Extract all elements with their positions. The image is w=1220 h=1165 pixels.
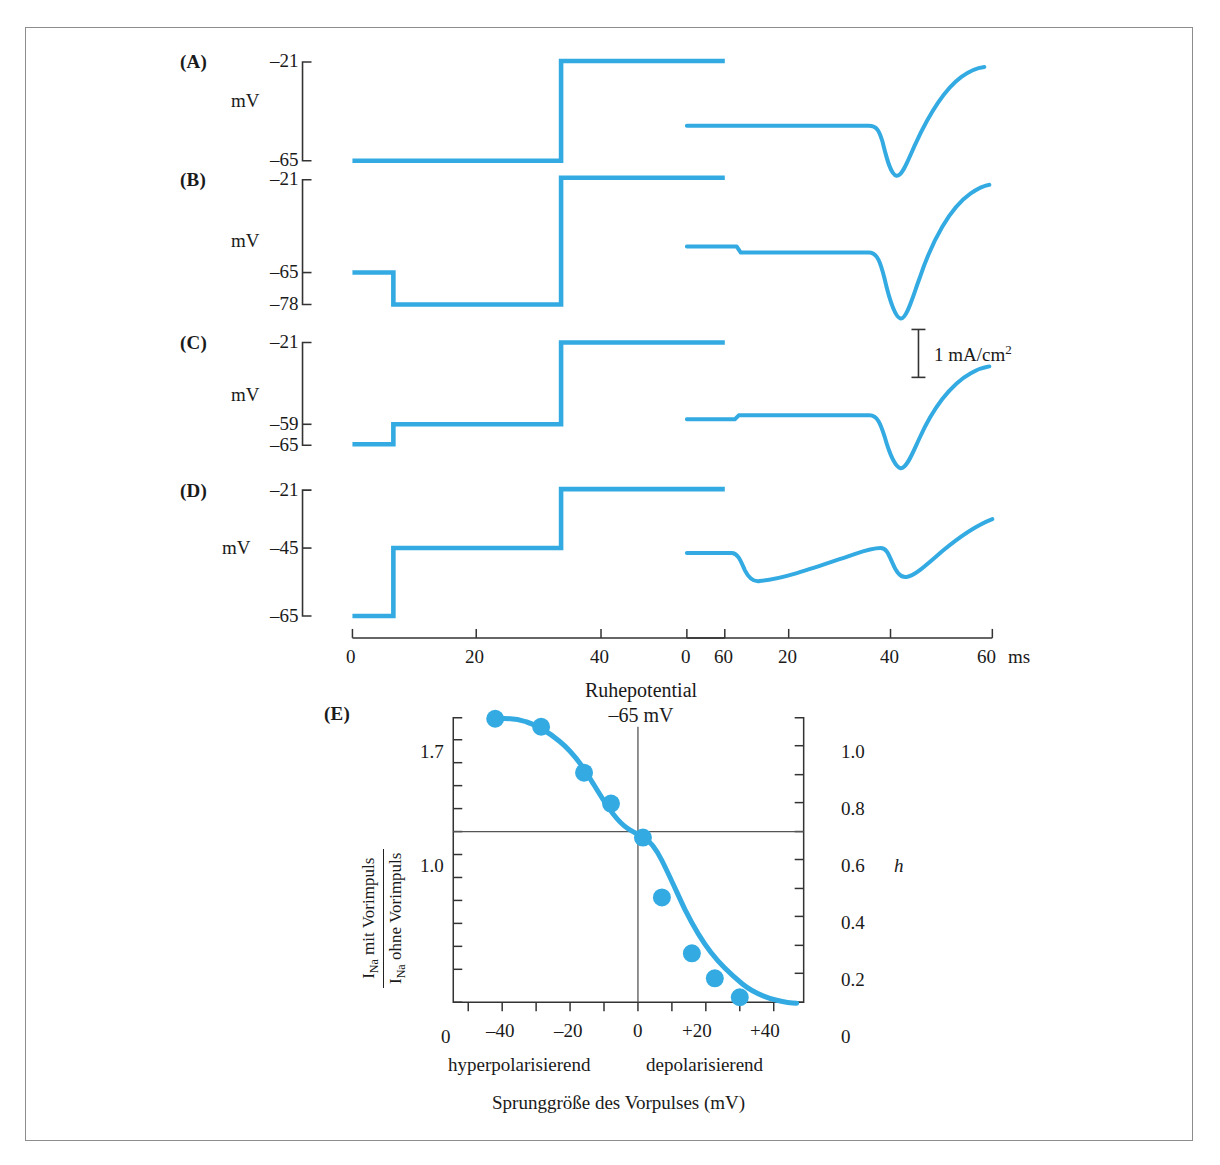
panel-e-left-tick-1-0: 1.0 — [420, 855, 444, 877]
x-axis-sublabel-hyperpolarizing: hyperpolarisierend — [448, 1054, 590, 1076]
inactivation-curve — [495, 718, 796, 1003]
x-axis-title: Sprunggröße des Vorpulses (mV) — [492, 1092, 745, 1114]
panel-d-axis-mid-value: –45 — [270, 537, 299, 559]
panel-c-voltage-trace — [352, 342, 724, 444]
panel-c-axis-bottom-value: –65 — [270, 434, 299, 456]
time-axis-right — [687, 629, 992, 638]
panel-c-axis-top-value: –21 — [270, 331, 299, 353]
panel-b-axis-mid-value: –65 — [270, 261, 299, 283]
panel-e-right-axis — [795, 718, 804, 1002]
panel-c-unit-label: mV — [231, 384, 260, 406]
scale-bar-label: 1 mA/cm2 — [934, 342, 1012, 366]
time-tick-right-40: 40 — [880, 646, 899, 668]
panel-e-x-tick-plus40: +40 — [750, 1020, 780, 1042]
panel-e-right-tick-0: 0 — [841, 1026, 851, 1048]
panel-b-current-trace — [687, 185, 989, 319]
scale-bar-exponent: 2 — [1005, 342, 1012, 357]
panel-a-voltage-axis — [303, 62, 312, 161]
inactivation-data-points — [486, 710, 749, 1006]
panel-d-axis-top-value: –21 — [270, 479, 299, 501]
time-tick-left-40: 40 — [590, 646, 609, 668]
panel-b-voltage-trace — [352, 178, 724, 305]
panel-a-current-trace — [687, 67, 984, 176]
y-axis-numerator: INa mit Vorimpuls — [359, 849, 383, 988]
panel-e-right-tick-0-4: 0.4 — [841, 912, 865, 934]
panel-label-e: (E) — [324, 703, 350, 725]
panel-e-left-axis — [453, 718, 462, 1002]
panel-e-x-tick-plus20: +20 — [682, 1020, 712, 1042]
panel-a-axis-top-value: –21 — [270, 50, 299, 72]
panel-b-voltage-axis — [303, 180, 312, 305]
time-tick-right-0: 0 — [681, 646, 691, 668]
resting-potential-annotation-line2: –65 mV — [566, 704, 716, 727]
panel-label-d: (D) — [180, 480, 207, 502]
panel-b-unit-label: mV — [231, 230, 260, 252]
panel-b-axis-bottom-value: –78 — [270, 293, 299, 315]
time-axis-unit: ms — [1008, 646, 1030, 668]
time-tick-left-20: 20 — [465, 646, 484, 668]
panel-d-current-trace — [687, 519, 992, 581]
panel-c-current-trace — [687, 366, 989, 468]
panel-e-x-axis — [453, 1002, 803, 1011]
figure-canvas — [26, 28, 1192, 1140]
time-tick-left-60: 60 — [714, 646, 733, 668]
panel-e-right-tick-0-2: 0.2 — [841, 969, 865, 991]
panel-e-right-axis-symbol: h — [894, 855, 904, 877]
resting-potential-annotation-line1: Ruhepotential — [566, 679, 716, 702]
panel-b-axis-top-value: –21 — [270, 168, 299, 190]
panel-label-b: (B) — [180, 169, 206, 191]
panel-e-left-tick-1-7: 1.7 — [420, 741, 444, 763]
panel-e-right-tick-0-8: 0.8 — [841, 798, 865, 820]
panel-c-voltage-axis — [303, 342, 312, 445]
panel-e-x-tick-minus20: –20 — [554, 1020, 583, 1042]
time-tick-right-60: 60 — [977, 646, 996, 668]
panel-e-y-axis-label: INa mit Vorimpuls INa ohne Vorimpuls — [359, 849, 410, 988]
scale-bar — [911, 329, 925, 377]
figure-frame: (A) –21 mV –65 (B) –21 mV –65 –78 (C) –2… — [25, 27, 1193, 1141]
panel-d-voltage-trace — [352, 489, 724, 616]
time-tick-right-20: 20 — [778, 646, 797, 668]
panel-e-right-tick-1-0: 1.0 — [841, 741, 865, 763]
panel-e-left-tick-0: 0 — [441, 1026, 451, 1048]
panel-label-a: (A) — [180, 51, 207, 73]
panel-d-axis-bottom-value: –65 — [270, 605, 299, 627]
panel-e-x-tick-0: 0 — [633, 1020, 643, 1042]
panel-e-right-tick-0-6: 0.6 — [841, 855, 865, 877]
panel-label-c: (C) — [180, 332, 207, 354]
time-tick-left-0: 0 — [346, 646, 356, 668]
panel-d-voltage-axis — [303, 490, 312, 616]
panel-a-unit-label: mV — [231, 90, 260, 112]
panel-c-axis-mid-value: –59 — [270, 413, 299, 435]
time-axis-left — [352, 629, 724, 638]
panel-e-x-tick-minus40: –40 — [486, 1020, 515, 1042]
x-axis-sublabel-depolarizing: depolarisierend — [646, 1054, 763, 1076]
y-axis-denominator: INa ohne Vorimpuls — [383, 849, 409, 988]
panel-a-voltage-trace — [352, 61, 724, 161]
panel-d-unit-label: mV — [222, 537, 251, 559]
